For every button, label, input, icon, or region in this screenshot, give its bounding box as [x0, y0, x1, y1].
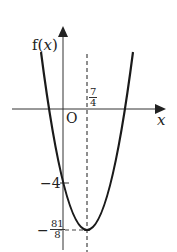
vertex-value-label: 81 8: [50, 219, 65, 240]
origin-label: O: [66, 111, 77, 125]
vertex-minus-sign: −: [37, 223, 49, 237]
y-axis-arrow-icon: [58, 26, 68, 37]
fraction-denominator: 4: [89, 98, 97, 108]
x-axis-label: x: [157, 113, 165, 128]
symmetry-value-label: 7 4: [89, 87, 97, 108]
y-intercept-label: −4: [40, 176, 61, 190]
fraction-denominator: 8: [50, 230, 65, 240]
parabola-graph: [0, 0, 177, 252]
y-axis-label: f(x): [32, 38, 58, 53]
